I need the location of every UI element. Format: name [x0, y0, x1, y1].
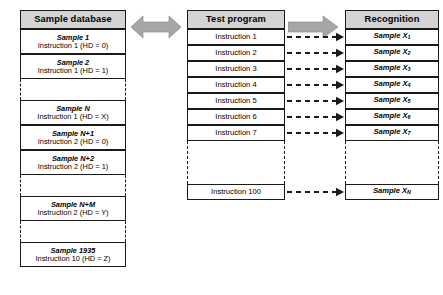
- recognition-entry-label: Sample X1: [373, 32, 410, 41]
- recognition-ellipsis-gap: [345, 141, 439, 184]
- recognition-entry-label: Sample XN: [373, 187, 411, 196]
- recognition-header-label: Recognition: [365, 14, 420, 24]
- recognition-entry-base: Sample X: [373, 95, 407, 104]
- recognition-entry-subscript: 5: [408, 99, 411, 105]
- recognition-entry-base: Sample X: [373, 79, 407, 88]
- diagram-canvas: Sample databaseSample 1Instruction 1 (HD…: [0, 0, 443, 295]
- recognition-entry-base: Sample X: [373, 47, 407, 56]
- recognition-entry-subscript: 4: [408, 83, 411, 89]
- recognition-entry-label: Sample X5: [373, 96, 410, 105]
- recognition-entry-subscript: 6: [408, 115, 411, 121]
- recognition-entry: Sample X5: [345, 93, 439, 109]
- recognition-entry-subscript: 3: [408, 67, 411, 73]
- recognition-entry-label: Sample X7: [373, 128, 410, 137]
- recognition-header: Recognition: [345, 10, 439, 29]
- recognition-entry-base: Sample X: [373, 127, 407, 136]
- recognition-entry-subscript: 2: [408, 51, 411, 57]
- recognition-entry-label: Sample X3: [373, 64, 410, 73]
- recognition-entry-base: Sample X: [373, 31, 407, 40]
- recognition-entry-subscript: 7: [408, 131, 411, 137]
- recognition-entry: Sample XN: [345, 184, 439, 200]
- recognition-entry: Sample X7: [345, 125, 439, 141]
- recognition-entry-base: Sample X: [373, 63, 407, 72]
- recognition-entry: Sample X4: [345, 77, 439, 93]
- recognition-entry: Sample X3: [345, 61, 439, 77]
- recognition-entry-subscript: 1: [408, 35, 411, 41]
- recognition-entry-label: Sample X6: [373, 112, 410, 121]
- recognition-entry-base: Sample X: [373, 186, 407, 195]
- recognition-entry-subscript: N: [407, 190, 411, 196]
- recognition-entry-label: Sample X2: [373, 48, 410, 57]
- recognition-entry-label: Sample X4: [373, 80, 410, 89]
- recognition-entry: Sample X2: [345, 45, 439, 61]
- recognition-entry: Sample X1: [345, 29, 439, 45]
- recognition-entry-base: Sample X: [373, 111, 407, 120]
- recognition-entry: Sample X6: [345, 109, 439, 125]
